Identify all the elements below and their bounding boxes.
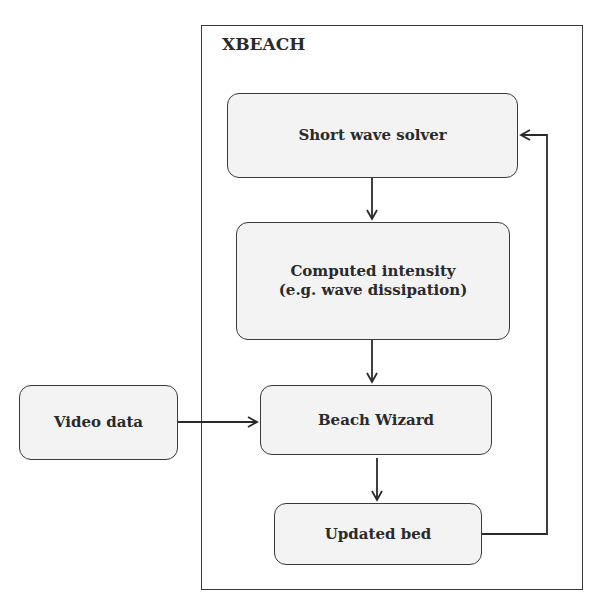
node-video-data: Video data [19, 385, 178, 460]
node-label: Short wave solver [298, 126, 446, 145]
node-short-wave-solver: Short wave solver [227, 93, 518, 178]
node-label: Video data [54, 413, 143, 432]
node-label-line2: (e.g. wave dissipation) [279, 281, 468, 300]
node-beach-wizard: Beach Wizard [260, 385, 492, 455]
node-label: Beach Wizard [318, 411, 434, 430]
node-label-line1: Computed intensity [279, 262, 468, 281]
node-computed-intensity: Computed intensity (e.g. wave dissipatio… [236, 222, 510, 340]
node-updated-bed: Updated bed [274, 503, 482, 565]
node-label: Updated bed [325, 525, 431, 544]
container-title: XBEACH [222, 34, 305, 54]
